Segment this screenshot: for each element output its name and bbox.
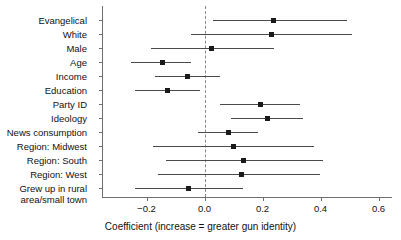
y-axis-tick [99, 48, 103, 49]
y-axis-label: News consumption [7, 127, 87, 138]
y-axis-label: Party ID [53, 99, 87, 110]
y-axis-tick [99, 104, 103, 105]
x-axis-tick [379, 197, 380, 201]
y-axis-label: Region: South [27, 155, 87, 166]
point-estimate-marker [231, 144, 236, 149]
x-axis-tick [321, 197, 322, 201]
y-axis-tick [99, 160, 103, 161]
x-axis-tick-label: 0.6 [372, 203, 385, 214]
y-axis-label-line: Grew up in rural [0, 183, 87, 195]
y-axis-tick [99, 174, 103, 175]
coefficient-row [103, 140, 392, 154]
y-axis-tick [99, 146, 103, 147]
y-axis-label: Evangelical [38, 15, 87, 26]
x-axis-tick-label: 0.2 [256, 203, 269, 214]
coefficient-row [103, 56, 392, 70]
y-axis-label: Age [70, 57, 87, 68]
x-axis-tick [263, 197, 264, 201]
coefficient-row [103, 112, 392, 126]
coefficient-row [103, 168, 392, 182]
point-estimate-marker [209, 46, 214, 51]
y-axis-label: Income [56, 71, 87, 82]
x-axis-tick [205, 197, 206, 201]
point-estimate-marker [186, 186, 191, 191]
x-axis-title: Coefficient (increase = greater gun iden… [0, 221, 401, 232]
point-estimate-marker [185, 74, 190, 79]
coefficient-row [103, 70, 392, 84]
point-estimate-marker [239, 172, 244, 177]
y-axis-label: Education [45, 85, 87, 96]
y-axis-label: Ideology [51, 113, 87, 124]
confidence-interval-bar [213, 20, 347, 21]
y-axis-tick [99, 34, 103, 35]
y-axis-tick [99, 188, 103, 189]
y-axis-tick [99, 118, 103, 119]
y-axis-tick [99, 76, 103, 77]
y-axis-label: Male [66, 43, 87, 54]
coefficient-row [103, 98, 392, 112]
x-axis-tick-label: 0.0 [198, 203, 211, 214]
coefficient-row [103, 84, 392, 98]
y-axis-label: Region: West [30, 169, 87, 180]
y-axis-tick [99, 20, 103, 21]
point-estimate-marker [165, 88, 170, 93]
point-estimate-marker [241, 158, 246, 163]
point-estimate-marker [258, 102, 263, 107]
y-axis-tick [99, 90, 103, 91]
coefficient-plot-figure: EvangelicalWhiteMaleAgeIncomeEducationPa… [0, 0, 401, 240]
point-estimate-marker [265, 116, 270, 121]
coefficient-row [103, 154, 392, 168]
coefficient-row [103, 28, 392, 42]
point-estimate-marker [226, 130, 231, 135]
x-axis-tick-label: 0.4 [314, 203, 327, 214]
plot-area: EvangelicalWhiteMaleAgeIncomeEducationPa… [102, 6, 392, 198]
y-axis-tick [99, 62, 103, 63]
y-axis-label-line: area/small town [0, 194, 87, 206]
coefficient-row [103, 42, 392, 56]
point-estimate-marker [269, 32, 274, 37]
y-axis-tick [99, 132, 103, 133]
y-axis-label: Grew up in ruralarea/small town [0, 183, 87, 206]
y-axis-label: White [63, 29, 87, 40]
x-axis-tick [147, 197, 148, 201]
coefficient-row [103, 14, 392, 28]
y-axis-label: Region: Midwest [17, 141, 87, 152]
point-estimate-marker [160, 60, 165, 65]
coefficient-row [103, 182, 392, 196]
point-estimate-marker [271, 18, 276, 23]
coefficient-row [103, 126, 392, 140]
x-axis-tick-label: −0.2 [137, 203, 156, 214]
